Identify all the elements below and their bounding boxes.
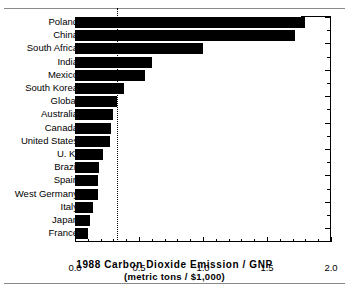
plot-area: PolandChinaSouth AfricaIndiaMexicoSouth …	[75, 16, 331, 242]
category-label: Poland	[0, 16, 78, 28]
x-tick-minor	[88, 239, 89, 242]
bar	[75, 202, 93, 213]
bar	[75, 149, 103, 160]
x-axis-subtitle: (metric tons / $1,000)	[0, 271, 349, 282]
bottom-divider-rule	[4, 283, 345, 284]
x-tick-major	[267, 237, 268, 242]
x-tick-major	[139, 237, 140, 242]
x-tick-minor	[216, 239, 217, 242]
category-label: Japan	[0, 214, 78, 226]
bar	[75, 70, 145, 81]
x-tick-minor	[177, 239, 178, 242]
x-tick-major	[203, 237, 204, 242]
y-tick	[327, 241, 331, 242]
category-label: South Korea	[0, 82, 78, 94]
category-label: Global	[0, 95, 78, 107]
y-tick	[327, 162, 331, 163]
bar-row: South Korea	[75, 83, 331, 94]
bar-row: West Germany	[75, 189, 331, 200]
category-label: France	[0, 227, 78, 239]
x-tick-minor	[126, 239, 127, 242]
bar	[75, 189, 98, 200]
y-tick	[325, 149, 331, 150]
bar-row: India	[75, 57, 331, 68]
y-tick	[325, 175, 331, 176]
bar	[75, 136, 110, 147]
bar-row: Global	[75, 96, 331, 107]
bar-row: Italy	[75, 202, 331, 213]
x-tick-minor	[318, 239, 319, 242]
x-tick-minor	[165, 239, 166, 242]
y-tick	[327, 109, 331, 110]
bar	[75, 30, 295, 41]
y-tick	[325, 43, 331, 44]
bar-row: South Africa	[75, 43, 331, 54]
bar	[75, 175, 98, 186]
global-average-reference-line	[117, 8, 118, 242]
category-label: Brazil	[0, 161, 78, 173]
y-tick	[327, 30, 331, 31]
bar	[75, 123, 111, 134]
bar	[75, 228, 88, 239]
y-tick	[325, 70, 331, 71]
bar	[75, 43, 203, 54]
bar	[75, 17, 305, 28]
y-tick	[327, 83, 331, 84]
bar-row: Brazil	[75, 162, 331, 173]
chart-figure: PolandChinaSouth AfricaIndiaMexicoSouth …	[0, 0, 349, 296]
y-tick	[325, 123, 331, 124]
category-label: United States	[0, 135, 78, 147]
bar-row: U. K.	[75, 149, 331, 160]
x-tick-major	[331, 237, 332, 242]
bar-row: China	[75, 30, 331, 41]
bar	[75, 109, 113, 120]
category-label: China	[0, 29, 78, 41]
category-label: Italy	[0, 201, 78, 213]
category-label: Australia	[0, 108, 78, 120]
category-label: U. K.	[0, 148, 78, 160]
category-label: South Africa	[0, 42, 78, 54]
x-tick-minor	[229, 239, 230, 242]
bar	[75, 162, 99, 173]
y-tick	[327, 189, 331, 190]
category-label: Canada	[0, 122, 78, 134]
y-tick	[327, 136, 331, 137]
bar-row: United States	[75, 136, 331, 147]
x-tick-minor	[113, 239, 114, 242]
y-tick	[325, 202, 331, 203]
x-tick-major	[75, 237, 76, 242]
x-tick-minor	[280, 239, 281, 242]
y-tick	[325, 228, 331, 229]
y-tick	[327, 57, 331, 58]
x-tick-minor	[254, 239, 255, 242]
bar	[75, 57, 152, 68]
bar-row: Japan	[75, 215, 331, 226]
category-label: India	[0, 56, 78, 68]
y-tick	[327, 215, 331, 216]
category-label: Mexico	[0, 69, 78, 81]
x-tick-minor	[152, 239, 153, 242]
bar-row: Australia	[75, 109, 331, 120]
y-tick	[325, 96, 331, 97]
category-label: West Germany	[0, 188, 78, 200]
x-axis-title: 1988 Carbon Dioxide Emission / GNP	[0, 259, 349, 270]
x-tick-minor	[305, 239, 306, 242]
bar-row: Spain	[75, 175, 331, 186]
bar-row: Poland	[75, 17, 331, 28]
bar-row: Mexico	[75, 70, 331, 81]
x-tick-minor	[190, 239, 191, 242]
bar	[75, 215, 90, 226]
bar	[75, 96, 117, 107]
x-tick-minor	[293, 239, 294, 242]
bar-row: Canada	[75, 123, 331, 134]
top-divider-rule	[4, 8, 345, 9]
y-tick	[325, 17, 331, 18]
category-label: Spain	[0, 174, 78, 186]
x-tick-minor	[101, 239, 102, 242]
x-tick-minor	[241, 239, 242, 242]
